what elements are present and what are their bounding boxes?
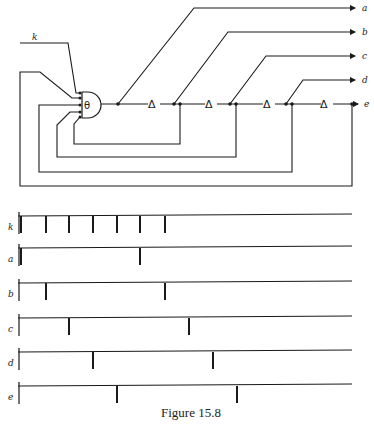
input-k-label: k: [32, 32, 37, 42]
timing-row-b: b: [8, 279, 352, 301]
output-d-label: d: [362, 75, 368, 85]
timing-diagram: kabcde: [8, 212, 352, 404]
timing-row-a: a: [8, 244, 352, 266]
output-c-label: c: [362, 51, 367, 61]
feedback-e: [20, 72, 352, 186]
output-a-label: a: [362, 3, 367, 13]
delay-4: Δ: [320, 98, 328, 111]
timing-label-k: k: [8, 222, 13, 232]
output-e-label: e: [364, 99, 369, 109]
gate-threshold-symbol: θ: [84, 100, 90, 111]
timing-row-e: e: [8, 382, 352, 404]
timing-label-e: e: [8, 392, 13, 402]
delay-2: Δ: [205, 98, 213, 111]
circuit-diagram: k θ Δ Δ Δ Δ a b c d e kabc: [0, 0, 374, 424]
timing-row-d: d: [8, 348, 352, 370]
timing-label-c: c: [8, 324, 13, 334]
output-b-line: [174, 32, 355, 104]
timing-label-a: a: [8, 254, 13, 264]
input-k-line: k: [20, 32, 80, 93]
figure-caption: Figure 15.8: [161, 405, 221, 420]
threshold-gate: θ: [79, 92, 102, 119]
timing-label-b: b: [8, 289, 14, 299]
timing-row-k: k: [8, 212, 352, 234]
feedback-d: [39, 104, 292, 172]
output-b-label: b: [362, 27, 368, 37]
delay-1: Δ: [148, 98, 156, 111]
delay-3: Δ: [263, 98, 271, 111]
timing-label-d: d: [8, 358, 14, 368]
timing-row-c: c: [8, 314, 352, 336]
